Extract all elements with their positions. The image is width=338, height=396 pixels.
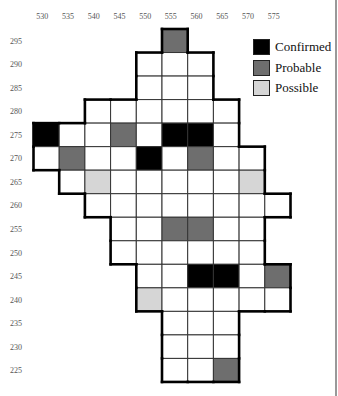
grid-cell-empty — [162, 147, 188, 171]
grid-cell-empty — [162, 53, 188, 77]
grid-cell-empty — [188, 53, 214, 77]
grid-cell-empty — [85, 123, 111, 147]
grid-cell-empty — [213, 241, 239, 265]
grid-cell-empty — [111, 100, 137, 124]
grid-cell-empty — [162, 311, 188, 335]
grid-cell-empty — [162, 76, 188, 100]
right-divider-line — [335, 0, 337, 396]
grid-cell-confirmed — [136, 147, 162, 171]
grid-cell-empty — [85, 194, 111, 218]
grid-cell-empty — [136, 76, 162, 100]
confirmed-swatch-icon — [253, 39, 270, 55]
grid-cell-empty — [34, 147, 60, 171]
grid-cell-empty — [213, 335, 239, 359]
grid-cell-probable — [188, 147, 214, 171]
grid-cell-empty — [188, 100, 214, 124]
legend-label-confirmed: Confirmed — [275, 39, 331, 55]
probable-swatch-icon — [253, 60, 270, 76]
grid-cell-empty — [213, 194, 239, 218]
grid-cell-empty — [162, 358, 188, 382]
grid-cell-empty — [162, 264, 188, 288]
grid-cell-empty — [162, 335, 188, 359]
grid-cell-empty — [239, 241, 265, 265]
grid-cell-empty — [136, 241, 162, 265]
grid-cell-empty — [213, 311, 239, 335]
grid-cell-empty — [239, 217, 265, 241]
grid-cell-probable — [188, 217, 214, 241]
grid-cell-empty — [188, 241, 214, 265]
legend-label-possible: Possible — [275, 80, 318, 96]
grid-cell-empty — [136, 100, 162, 124]
grid-cell-confirmed — [34, 123, 60, 147]
grid-cell-confirmed — [188, 264, 214, 288]
legend: Confirmed Probable Possible — [253, 37, 331, 99]
grid-cell-empty — [136, 123, 162, 147]
grid-cell-empty — [59, 123, 85, 147]
grid-cell-empty — [239, 288, 265, 312]
legend-label-probable: Probable — [275, 60, 321, 76]
grid-cell-empty — [188, 170, 214, 194]
grid-cell-probable — [162, 29, 188, 53]
grid-cell-empty — [188, 311, 214, 335]
grid-cell-empty — [111, 147, 137, 171]
grid-cell-confirmed — [213, 264, 239, 288]
grid-cell-empty — [162, 100, 188, 124]
grid-cell-probable — [59, 147, 85, 171]
grid-cell-empty — [188, 358, 214, 382]
grid-cell-probable — [162, 217, 188, 241]
grid-cell-empty — [136, 170, 162, 194]
grid-occupancy-chart: 530535540545550555560565570575 295290285… — [0, 0, 338, 396]
legend-item-confirmed: Confirmed — [253, 37, 331, 58]
possible-swatch-icon — [253, 80, 270, 96]
grid-cell-empty — [162, 170, 188, 194]
grid-cell-empty — [136, 53, 162, 77]
grid-cell-empty — [162, 194, 188, 218]
grid-cell-empty — [85, 147, 111, 171]
grid-cell-possible — [85, 170, 111, 194]
legend-item-possible: Possible — [253, 78, 331, 99]
legend-item-probable: Probable — [253, 58, 331, 79]
grid-cell-empty — [265, 194, 291, 218]
grid-cell-empty — [188, 335, 214, 359]
grid-cell-possible — [239, 170, 265, 194]
grid-cell-empty — [136, 217, 162, 241]
grid-cell-empty — [239, 147, 265, 171]
grid-cell-empty — [111, 170, 137, 194]
grid-cell-probable — [265, 264, 291, 288]
grid-cell-empty — [213, 217, 239, 241]
grid-cell-empty — [59, 170, 85, 194]
grid-cell-empty — [111, 217, 137, 241]
grid-cell-empty — [213, 170, 239, 194]
grid-cell-empty — [162, 241, 188, 265]
grid-cell-empty — [162, 288, 188, 312]
grid-cell-empty — [239, 194, 265, 218]
grid-cell-probable — [111, 123, 137, 147]
grid-cell-empty — [188, 76, 214, 100]
grid-cell-empty — [136, 194, 162, 218]
grid-cell-empty — [85, 100, 111, 124]
grid-cell-empty — [265, 288, 291, 312]
grid-cell-confirmed — [162, 123, 188, 147]
grid-cell-confirmed — [188, 123, 214, 147]
grid-cell-empty — [111, 194, 137, 218]
grid-cell-possible — [136, 288, 162, 312]
grid-cell-empty — [213, 123, 239, 147]
grid-cell-empty — [188, 288, 214, 312]
grid-cell-empty — [213, 288, 239, 312]
grid-cell-empty — [111, 241, 137, 265]
grid-cell-empty — [239, 264, 265, 288]
grid-cell-probable — [213, 358, 239, 382]
grid-cell-empty — [213, 147, 239, 171]
grid-cell-empty — [188, 194, 214, 218]
grid-cell-empty — [213, 100, 239, 124]
grid-cell-empty — [136, 264, 162, 288]
